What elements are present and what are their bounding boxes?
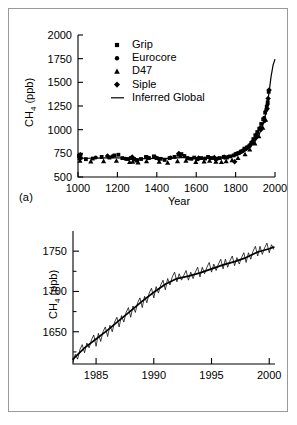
panel-a-x-axis-title: Year	[168, 195, 191, 207]
y-tick-label: 1000	[48, 124, 72, 136]
data-marker-diamond	[114, 82, 120, 88]
legend-item-d47: D47	[114, 64, 152, 76]
data-marker-square	[163, 158, 167, 162]
data-marker-square	[173, 155, 177, 159]
y-tick-label: 750	[54, 147, 72, 159]
data-marker-circle	[94, 156, 98, 160]
panel-b-chart: 1650170017501985199019952000 CH4 (ppb) (…	[9, 209, 287, 413]
data-marker-circle	[123, 157, 127, 161]
y-tick-label: 1500	[48, 76, 72, 88]
y-tick-label: 1650	[43, 326, 67, 338]
legend-item-inferred-global: Inferred Global	[111, 91, 205, 103]
legend-label: Inferred Global	[132, 91, 205, 103]
data-marker-circle	[266, 102, 270, 106]
panel-b-monthly-series	[73, 243, 274, 362]
x-tick-label: 1000	[66, 182, 90, 194]
data-marker-circle	[169, 156, 173, 160]
figure-frame: 5007501000125015001750200010001200140016…	[8, 8, 288, 412]
panel-a-y-axis-title: CH4 (ppb)	[23, 78, 38, 127]
panel-b-svg: 1650170017501985199019952000 CH4 (ppb)	[9, 209, 289, 413]
data-marker-square	[116, 153, 120, 157]
legend-label: Siple	[132, 78, 156, 90]
x-tick-label: 1200	[105, 182, 129, 194]
panel-a-label: (a)	[19, 191, 33, 203]
data-marker-triangle	[114, 69, 120, 74]
inferred-global-line	[78, 59, 275, 159]
y-tick-label: 1250	[48, 100, 72, 112]
legend-label: Grip	[132, 38, 153, 50]
panel-b-tick-labels: 1650170017501985199019952000	[43, 245, 282, 381]
data-marker-square	[84, 157, 88, 161]
panel-a-legend: GripEurocoreD47SipleInferred Global	[111, 38, 205, 103]
y-tick-label: 2000	[48, 29, 72, 41]
legend-item-siple: Siple	[114, 78, 157, 90]
x-tick-label: 1800	[223, 182, 247, 194]
y-tick-label: 1750	[43, 245, 67, 257]
data-marker-triangle	[175, 159, 180, 164]
x-tick-label: 1995	[199, 369, 223, 381]
x-tick-label: 2000	[257, 369, 281, 381]
data-marker-triangle	[114, 158, 119, 163]
panel-a-chart: 5007501000125015001750200010001200140016…	[9, 9, 287, 214]
legend-label: Eurocore	[132, 51, 177, 63]
monthly-oscillating-line	[73, 243, 274, 362]
panel-a-inferred-global-curve	[78, 59, 275, 159]
data-marker-square	[259, 122, 263, 126]
x-tick-label: 1400	[145, 182, 169, 194]
legend-item-grip: Grip	[115, 38, 153, 50]
panel-a-svg: 5007501000125015001750200010001200140016…	[9, 9, 289, 214]
data-marker-square	[139, 157, 143, 161]
panel-b-spines	[73, 231, 275, 364]
x-tick-label: 1990	[142, 369, 166, 381]
data-marker-triangle	[219, 159, 224, 164]
x-tick-label: 1985	[84, 369, 108, 381]
x-tick-label: 1600	[184, 182, 208, 194]
data-marker-triangle	[101, 159, 106, 164]
panel-b-ticks	[73, 251, 269, 364]
data-marker-circle	[115, 56, 119, 60]
legend-label: D47	[132, 64, 152, 76]
y-tick-label: 1750	[48, 53, 72, 65]
data-marker-circle	[110, 154, 114, 158]
panel-b-trend-series	[73, 247, 274, 359]
x-tick-label: 2000	[263, 182, 287, 194]
panel-b-axes	[73, 231, 275, 364]
data-marker-square	[115, 43, 119, 47]
legend-item-eurocore: Eurocore	[115, 51, 177, 63]
smoothed-trend-line	[73, 247, 274, 359]
data-marker-square	[100, 155, 104, 159]
